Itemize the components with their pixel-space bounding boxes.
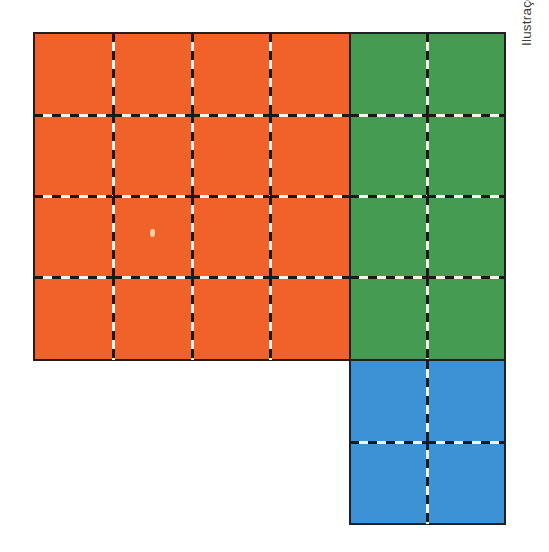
orange-cell-r2c2 [114,115,193,196]
orange-cell-r3c2 [114,197,193,278]
blue-cell-r1c1 [351,361,428,442]
green-cell-r2c1 [351,115,428,196]
green-cell-r4c1 [351,278,428,359]
orange-cell-r1c3 [192,34,271,115]
figure-canvas: Ilustrações: DAE [0,0,549,552]
blue-cell-r1c2 [428,361,505,442]
blue-cell-r2c1 [351,442,428,523]
orange-cell-r1c1 [35,34,114,115]
green-cell-r3c2 [428,197,505,278]
orange-cell-r2c3 [192,115,271,196]
paper-speck [150,229,155,237]
green-region [349,32,506,361]
orange-cell-r4c4 [271,278,350,359]
orange-cell-r3c4 [271,197,350,278]
green-cell-r4c2 [428,278,505,359]
green-cell-r1c2 [428,34,505,115]
green-cell-r2c2 [428,115,505,196]
orange-cell-r2c4 [271,115,350,196]
orange-cell-r1c2 [114,34,193,115]
blue-region [349,359,506,525]
orange-cell-r3c1 [35,197,114,278]
orange-cell-r4c3 [192,278,271,359]
orange-cell-r1c4 [271,34,350,115]
orange-cell-r2c1 [35,115,114,196]
orange-cell-r3c3 [192,197,271,278]
orange-region [33,32,351,361]
green-cell-r3c1 [351,197,428,278]
orange-cell-r4c1 [35,278,114,359]
orange-cell-r4c2 [114,278,193,359]
green-cell-r1c1 [351,34,428,115]
illustration-credit: Ilustrações: DAE [519,0,534,46]
blue-cell-r2c2 [428,442,505,523]
